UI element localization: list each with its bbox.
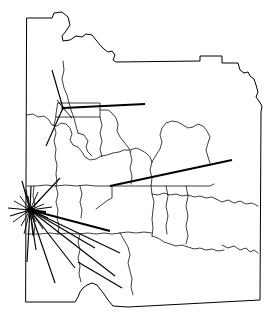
state-outline — [26, 12, 262, 307]
state-boundary-path — [26, 12, 262, 307]
primary-origin-hub — [27, 207, 33, 213]
map-canvas — [0, 0, 269, 323]
secondary-origin-hub — [61, 106, 64, 109]
map-figure — [0, 0, 269, 323]
